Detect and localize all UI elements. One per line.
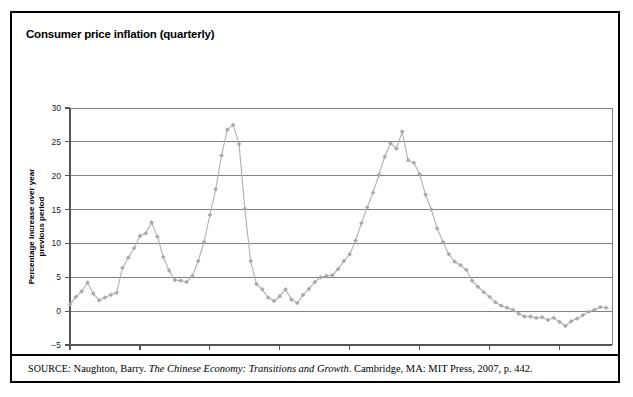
source-publication: . Cambridge, MA: MIT Press, 2007, p. 442…	[349, 363, 533, 374]
series-data-point	[138, 234, 142, 238]
series-data-point	[237, 142, 241, 146]
series-data-point	[505, 306, 509, 310]
y-axis-tick-label: 5	[56, 272, 61, 282]
series-data-point	[115, 291, 119, 295]
source-citation: SOURCE: Naughton, Barry. The Chinese Eco…	[28, 363, 608, 374]
svg-text:Percentage increase over year: Percentage increase over year	[27, 169, 36, 285]
series-data-point	[109, 293, 113, 297]
y-axis-tick-label: 0	[56, 306, 61, 316]
series-data-point	[534, 316, 538, 320]
series-data-point	[383, 155, 387, 159]
series-data-point	[208, 213, 212, 217]
source-label: SOURCE:	[28, 363, 71, 374]
chart-svg: −505101520253019831986198919921995199820…	[12, 13, 618, 353]
y-axis-tick-label: 20	[52, 171, 62, 181]
series-data-point	[435, 227, 439, 231]
series-data-point	[412, 161, 416, 165]
figure-container: Consumer price inflation (quarterly) −50…	[10, 11, 620, 383]
series-data-point	[156, 235, 160, 239]
series-data-point	[546, 318, 550, 322]
series-data-point	[424, 193, 428, 197]
series-data-point	[406, 158, 410, 162]
y-axis-tick-label: 10	[52, 238, 62, 248]
series-data-point	[243, 207, 247, 211]
series-line	[70, 125, 606, 326]
series-data-point	[249, 259, 253, 263]
series-data-point	[377, 173, 381, 177]
y-axis-tick-label: −5	[51, 340, 61, 350]
series-data-point	[598, 305, 602, 309]
series-data-point	[220, 154, 224, 158]
source-book-title: The Chinese Economy: Transitions and Gro…	[149, 363, 349, 374]
source-divider	[12, 354, 618, 356]
y-axis-tick-label: 25	[52, 137, 62, 147]
svg-text:previous period: previous period	[37, 196, 46, 256]
series-data-point	[103, 296, 107, 300]
series-data-point	[365, 206, 369, 210]
series-data-point	[214, 187, 218, 191]
series-data-point	[359, 221, 363, 225]
series-data-point	[354, 239, 358, 243]
series-data-point	[604, 306, 608, 310]
y-axis-title: Percentage increase over yearprevious pe…	[27, 169, 46, 285]
series-data-point	[429, 208, 433, 212]
series-data-point	[161, 255, 165, 259]
series-data-point	[400, 130, 404, 134]
y-axis-tick-label: 15	[52, 205, 62, 215]
y-axis-tick-label: 30	[52, 103, 62, 113]
series-data-point	[540, 315, 544, 319]
series-data-point	[196, 259, 200, 263]
series-data-point	[371, 191, 375, 195]
series-data-point	[529, 315, 533, 319]
chart-plot-area: −505101520253019831986198919921995199820…	[12, 13, 618, 353]
series-data-point	[179, 279, 183, 283]
source-author: Naughton, Barry.	[71, 363, 149, 374]
series-data-point	[523, 315, 527, 319]
